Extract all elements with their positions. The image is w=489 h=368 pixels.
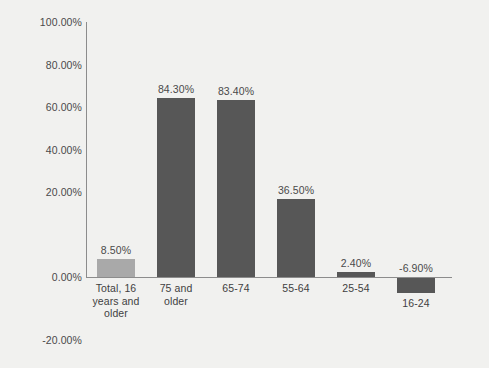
bar-75-and-older	[157, 98, 195, 277]
bar-value-75-and-older: 84.30%	[146, 83, 206, 95]
category-label-25-54: 25-54	[326, 282, 386, 295]
chart-figure: 100.00% 80.00% 60.00% 40.00% 20.00% 0.00…	[0, 0, 489, 368]
bar-16-24	[397, 278, 435, 293]
y-axis-tick-40: 40.00%	[2, 144, 82, 156]
bar-total-16-years-and-older	[97, 259, 135, 277]
category-label-75-and-older: 75 and older	[146, 282, 206, 307]
category-label-55-64: 55-64	[266, 282, 326, 295]
category-label-65-74: 65-74	[206, 282, 266, 295]
y-axis-tick-100: 100.00%	[2, 16, 82, 28]
bar-65-74	[217, 100, 255, 277]
category-label-16-24: 16-24	[386, 297, 446, 310]
bar-value-16-24: -6.90%	[386, 262, 446, 274]
y-axis-tick-neg20: -20.00%	[2, 334, 82, 346]
bar-value-55-64: 36.50%	[266, 184, 326, 196]
y-axis-line	[86, 22, 87, 278]
bar-55-64	[277, 199, 315, 277]
category-label-total-16-years-and-older: Total, 16 years and older	[86, 282, 146, 320]
y-axis-tick-20: 20.00%	[2, 186, 82, 198]
y-axis-tick-80: 80.00%	[2, 59, 82, 71]
bar-25-54	[337, 272, 375, 277]
y-axis-tick-60: 60.00%	[2, 101, 82, 113]
bar-value-25-54: 2.40%	[326, 257, 386, 269]
y-axis-tick-0: 0.00%	[2, 271, 82, 283]
bar-value-65-74: 83.40%	[206, 85, 266, 97]
bar-value-total-16-years-and-older: 8.50%	[86, 244, 146, 256]
bar-chart-plot-area: 100.00% 80.00% 60.00% 40.00% 20.00% 0.00…	[0, 0, 489, 368]
